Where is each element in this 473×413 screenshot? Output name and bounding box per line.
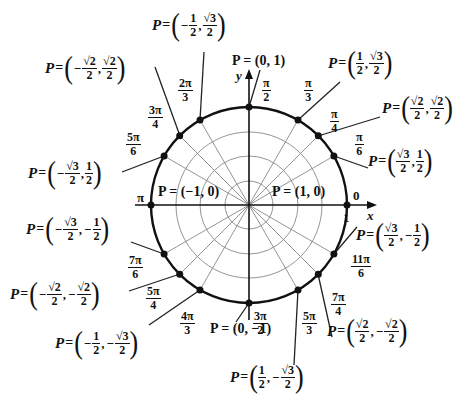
angle-pi: π — [137, 190, 144, 206]
point-label-pi-6: P=( √32, 12) — [368, 148, 432, 174]
point-label-0: P = (1, 0) — [272, 185, 325, 199]
point-label-pi-4: P=( √22, √22) — [382, 95, 453, 121]
point-label-2pi-3: P=(− 12, √32) — [152, 12, 226, 38]
point-label-5pi-6: P=(− √32, 12) — [28, 160, 102, 186]
angle-5pi-4: 5π4 — [146, 285, 161, 311]
point-label-5pi-4: P=(− √22,− √22) — [10, 281, 100, 307]
y-axis-label: y — [236, 68, 242, 84]
point-label-7pi-4: P=( √22,− √22) — [327, 318, 407, 344]
angle-pi-6: π6 — [355, 131, 364, 157]
point-label-3pi-2: P = (0, −1) — [210, 322, 271, 336]
angle-pi-3: π3 — [304, 77, 313, 103]
angle-7pi-6: 7π6 — [128, 254, 143, 280]
point-label-4pi-3: P=(− 12,− √32) — [55, 330, 138, 356]
point-label-3pi-4: P=(− √22, √22) — [45, 55, 125, 81]
point-label-pi-3: P=( 12, √32) — [328, 50, 392, 76]
angle-3pi-4: 3π4 — [148, 104, 163, 130]
point-label-7pi-6: P=(− √32,− 12) — [26, 216, 109, 242]
angle-2pi-3: 2π3 — [178, 77, 193, 103]
angle-5pi-6: 5π6 — [126, 131, 141, 157]
angle-7pi-4: 7π4 — [331, 291, 346, 317]
angle-5pi-3: 5π3 — [302, 310, 317, 336]
angle-4pi-3: 4π3 — [180, 310, 195, 336]
angle-11pi-6: 11π6 — [351, 253, 371, 279]
point-label-pi-2: P = (0, 1) — [232, 54, 285, 68]
y-axis-arrow-icon — [245, 69, 253, 79]
angle-pi-4: π4 — [330, 108, 339, 134]
x-tick-one: 1 — [343, 210, 350, 226]
point-label-5pi-3: P=( 12,− √32) — [230, 364, 304, 390]
angle-0: 0 — [353, 188, 360, 204]
point-label-pi: P = (−1, 0) — [158, 185, 219, 199]
angle-pi-2: π2 — [262, 77, 271, 103]
point-label-11pi-6: P=( √32,− 12) — [356, 222, 430, 248]
